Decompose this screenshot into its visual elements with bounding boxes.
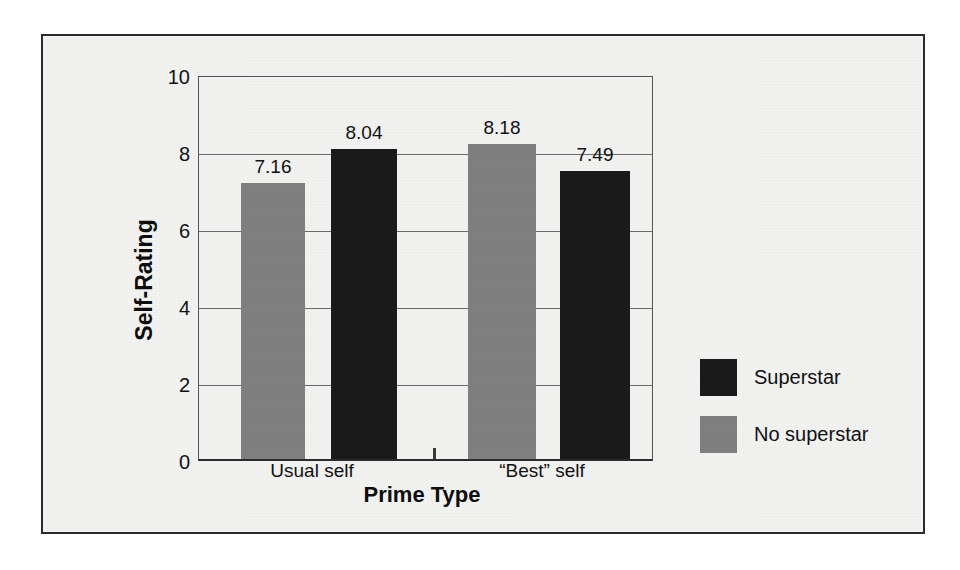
y-axis-tick-label: 4: [179, 297, 190, 320]
bar-value-label: 8.04: [346, 122, 383, 144]
y-axis-tick-label: 8: [179, 143, 190, 166]
category-separator-tick: [433, 448, 436, 459]
scanned-page: of the same sort of effect as a source o…: [0, 0, 960, 570]
legend-label: No superstar: [754, 423, 869, 446]
bar: 7.49: [560, 171, 630, 459]
legend: SuperstarNo superstar: [700, 358, 869, 472]
y-axis-title: Self-Rating: [131, 219, 158, 340]
legend-label: Superstar: [754, 366, 841, 389]
bar: 8.18: [468, 144, 536, 459]
bar-value-label: 7.16: [255, 156, 292, 178]
legend-item: Superstar: [700, 358, 869, 396]
bar-value-label: 8.18: [484, 117, 521, 139]
bar: 7.16: [241, 183, 305, 459]
y-axis-tick-label: 6: [179, 220, 190, 243]
bar: 8.04: [331, 149, 397, 459]
x-axis-category-label: Usual self: [270, 460, 353, 482]
figure-frame: Self-Rating 0246810 7.168.048.187.49 Usu…: [41, 34, 925, 534]
legend-item: No superstar: [700, 415, 869, 453]
bar-value-label: 7.49: [577, 144, 614, 166]
legend-swatch: [700, 416, 737, 453]
legend-swatch: [700, 359, 737, 396]
y-axis-tick-label: 10: [168, 66, 190, 89]
x-axis-category-label: “Best” self: [499, 460, 585, 482]
plot-area: 0246810 7.168.048.187.49: [198, 76, 653, 461]
y-axis-tick-label: 0: [179, 451, 190, 474]
y-axis-tick-label: 2: [179, 374, 190, 397]
x-axis-title: Prime Type: [364, 482, 481, 508]
